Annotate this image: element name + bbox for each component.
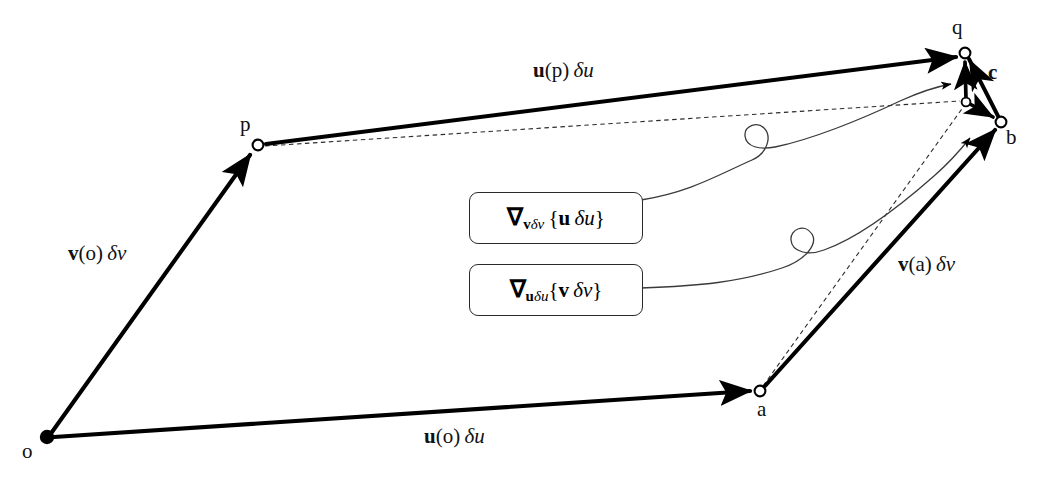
annotation-box-grad-v-u: ∇vδv {u δu} (469, 192, 643, 244)
point-marker-a (755, 386, 766, 397)
point-marker-o (40, 430, 54, 444)
vector-o-to-p (52, 155, 250, 432)
vector-p-to-q (266, 57, 956, 144)
annotation-box-grad-v-u-text: ∇vδv {u δu} (507, 203, 605, 233)
point-label-b: b (1006, 127, 1017, 148)
annotation-box-grad-u-v: ∇uδu{v δv} (469, 264, 643, 316)
leader-box-grad-v-u (641, 84, 951, 200)
point-marker-q (960, 48, 971, 59)
vector-label-v-o-deltav: v(o) δv (68, 243, 126, 264)
diagram-canvas: o p a q b v(o) δv u(o) δu u(p) δu v(a) δ… (0, 0, 1039, 485)
point-label-a: a (757, 399, 766, 420)
point-marker-p (253, 140, 264, 151)
point-marker-junction (962, 98, 971, 107)
vector-a-to-b (765, 130, 995, 386)
point-marker-b (996, 117, 1007, 128)
annotation-box-grad-u-v-text: ∇uδu{v δv} (510, 275, 603, 305)
vector-o-to-a (54, 391, 750, 437)
point-label-o: o (22, 441, 33, 462)
vector-junction-to-b (970, 104, 993, 117)
vector-junction-to-q (965, 62, 966, 99)
vector-label-u-o-deltau: u(o) δu (424, 426, 485, 447)
point-label-p: p (240, 114, 251, 135)
point-label-q: q (952, 17, 963, 38)
primary-vectors (52, 57, 995, 437)
dashed-p-to-junction (265, 101, 960, 146)
vector-label-v-a-deltav: v(a) δv (898, 254, 955, 275)
vector-label-c: c (988, 62, 997, 83)
vector-label-u-p-deltau: u(p) δu (533, 60, 594, 81)
